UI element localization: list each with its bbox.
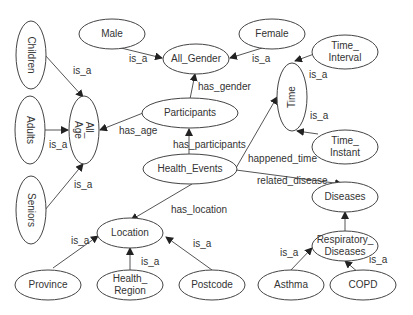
edge-label-has-gender: has_gender: [198, 81, 251, 92]
edge-label-male-is-a: is_a: [129, 53, 148, 64]
edge-time-instant-time: [297, 131, 318, 134]
svg-text:Interval: Interval: [329, 52, 362, 63]
edge-label-seniors-is-a: is_a: [74, 179, 93, 190]
svg-text:Asthma: Asthma: [274, 279, 308, 290]
svg-text:Health_Events: Health_Events: [157, 163, 222, 174]
edge-label-has-location: has_location: [171, 204, 227, 215]
edge-label-adults-is-a: is_a: [49, 139, 68, 150]
node-province: Province: [15, 270, 81, 300]
svg-text:Health_: Health_: [113, 273, 148, 284]
svg-text:COPD: COPD: [349, 279, 378, 290]
node-time: Time: [277, 63, 307, 131]
edge-participants-all-gender: [190, 74, 195, 99]
node-all-gender: All_Gender: [163, 44, 229, 74]
svg-text:Time: Time: [286, 86, 297, 108]
edge-label-region-is-a: is_a: [141, 256, 160, 267]
node-time-interval: Time_ Interval: [312, 35, 378, 69]
edge-label-province-is-a: is_a: [71, 235, 90, 246]
svg-text:Time_: Time_: [331, 40, 359, 51]
node-seniors: Seniors: [16, 176, 46, 244]
svg-text:Participants: Participants: [164, 107, 216, 118]
svg-text:All_Gender: All_Gender: [171, 53, 222, 64]
node-diseases: Diseases: [312, 182, 378, 212]
svg-text:Instant: Instant: [330, 147, 360, 158]
node-location: Location: [97, 218, 163, 248]
svg-text:Male: Male: [101, 28, 123, 39]
node-respiratory-diseases: Respiratory_ Diseases: [312, 231, 378, 261]
node-time-instant: Time_ Instant: [312, 130, 378, 164]
node-adults: Adults: [15, 96, 45, 164]
node-postcode: Postcode: [179, 270, 245, 300]
node-children: Children: [16, 21, 46, 89]
edge-children-all-age: [45, 55, 83, 97]
edge-label-related-disease: related_disease: [257, 175, 328, 186]
node-all-age: All_ Age: [69, 96, 99, 164]
svg-text:Children: Children: [26, 36, 37, 73]
svg-text:Diseases: Diseases: [324, 191, 365, 202]
node-health-region: Health_ Region: [97, 270, 163, 300]
ontology-diagram: is_a is_a is_a is_a is_a has_gender has_…: [0, 0, 413, 315]
svg-text:Postcode: Postcode: [191, 279, 233, 290]
edge-time-interval-time: [295, 54, 314, 61]
svg-text:Seniors: Seniors: [26, 193, 37, 227]
edge-label-female-is-a: is_a: [252, 53, 271, 64]
node-asthma: Asthma: [258, 270, 324, 300]
node-male: Male: [79, 19, 145, 49]
edge-label-interval-is-a: is_a: [309, 69, 328, 80]
edge-label-instant-is-a: is_a: [310, 110, 329, 121]
svg-text:Region: Region: [114, 285, 146, 296]
edge-label-has-age: has_age: [119, 125, 158, 136]
node-health-events: Health_Events: [143, 154, 237, 184]
edge-label-postcode-is-a: is_a: [193, 238, 212, 249]
node-copd: COPD: [330, 270, 396, 300]
svg-text:Female: Female: [255, 28, 289, 39]
node-female: Female: [239, 19, 305, 49]
node-participants: Participants: [142, 98, 238, 128]
svg-text:Adults: Adults: [25, 116, 36, 144]
svg-text:Diseases: Diseases: [324, 246, 365, 257]
svg-text:Province: Province: [29, 279, 68, 290]
edge-label-has-participants: has_participants: [173, 139, 246, 150]
svg-text:All_: All_: [84, 122, 95, 139]
svg-text:Age: Age: [73, 121, 84, 139]
edge-label-happened-time: happened_time: [248, 153, 317, 164]
svg-text:Respiratory_: Respiratory_: [317, 234, 374, 245]
svg-text:Time_: Time_: [331, 135, 359, 146]
svg-text:Location: Location: [111, 227, 149, 238]
edge-label-copd-is-a: is_a: [369, 254, 388, 265]
edge-label-children-is-a: is_a: [73, 65, 92, 76]
edge-label-asthma-is-a: is_a: [280, 247, 299, 258]
